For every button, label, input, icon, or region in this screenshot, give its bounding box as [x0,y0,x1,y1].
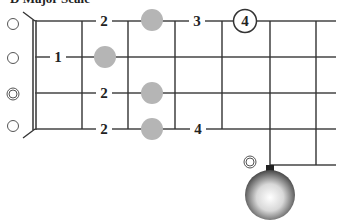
strings [35,21,336,165]
fretboard-diagram: 2 3 4 1 2 2 4 [0,0,340,224]
open-circle-icon [8,19,19,30]
open-circle-icon [8,53,19,64]
note-dot [141,82,163,104]
note-dot [94,46,116,68]
note-dot [141,9,163,31]
nut [23,12,36,138]
finger-number: 1 [54,49,62,65]
finger-number: 3 [193,13,201,29]
finger-number: 4 [194,121,202,137]
finger-number: 2 [100,85,108,101]
finger-number: 2 [100,121,108,137]
finger-number: 2 [100,13,108,29]
open-circle-icon [8,121,19,132]
fifth-string-peg-icon [245,165,295,220]
finger-number: 4 [241,13,249,29]
note-dot [141,118,163,140]
